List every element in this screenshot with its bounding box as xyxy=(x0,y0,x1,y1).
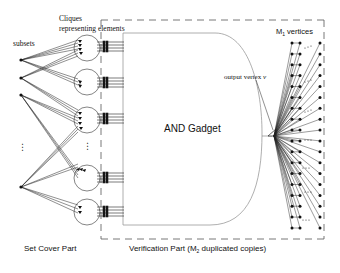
subset-node xyxy=(19,58,22,61)
m1-vertex xyxy=(319,52,322,55)
m1-vertex xyxy=(291,118,294,121)
subset-edges xyxy=(21,40,78,213)
m1-vertex xyxy=(319,183,322,186)
m1-vertex xyxy=(319,205,322,208)
reduction-diagram: ⋮ ⋮ subsets Cliques representing element… xyxy=(0,0,340,273)
m1-vertex xyxy=(319,194,322,197)
m1-vertex xyxy=(291,216,294,219)
m1-vertex xyxy=(319,85,322,88)
m1-vertex xyxy=(299,205,302,208)
fan-edge xyxy=(274,54,320,136)
m1-vertex xyxy=(299,96,302,99)
clique-ellipsis: ⋮ xyxy=(83,141,92,151)
m1-vertex xyxy=(319,118,322,121)
fan-edge xyxy=(274,136,320,195)
m1-vertex xyxy=(291,150,294,153)
fan-edge xyxy=(274,76,320,136)
output-vertex-pointer xyxy=(256,80,273,130)
m1-vertex xyxy=(319,107,322,110)
m1-vertex xyxy=(291,52,294,55)
m1-vertex xyxy=(319,74,322,77)
subset-node xyxy=(19,93,22,96)
m1-vertex xyxy=(299,85,302,88)
m1-vertex xyxy=(319,129,322,132)
fan-edge xyxy=(274,136,320,217)
m1-vertex xyxy=(299,118,302,121)
cliques-label-line1: Cliques xyxy=(59,14,82,23)
m1-vertex xyxy=(291,139,294,142)
m1-vertex xyxy=(291,85,294,88)
m1-vertex xyxy=(319,63,322,66)
m1-vertex xyxy=(299,183,302,186)
verification-part-label: Verification Part (M2 duplicated copies) xyxy=(129,244,266,254)
m1-vertex xyxy=(299,150,302,153)
subset-node xyxy=(19,76,22,79)
m1-vertex xyxy=(291,194,294,197)
m1-vertex xyxy=(291,42,294,45)
m1-vertex xyxy=(291,227,294,230)
m1-vertex xyxy=(299,194,302,197)
fan-edge xyxy=(274,136,292,217)
m1-vertex xyxy=(319,227,322,230)
clique xyxy=(74,107,100,133)
subsets-label: subsets xyxy=(13,39,35,48)
output-vertex-label: output vertex v xyxy=(224,73,267,81)
m1-vertex xyxy=(319,139,322,142)
m1-vertex xyxy=(299,139,302,142)
clique xyxy=(74,199,100,225)
m1-vertex xyxy=(291,63,294,66)
set-cover-part-label: Set Cover Part xyxy=(24,244,77,253)
m1-vertex xyxy=(299,74,302,77)
m1-vertex xyxy=(319,150,322,153)
clique-arrowheads xyxy=(76,40,86,214)
m1-vertex xyxy=(319,96,322,99)
clique xyxy=(74,35,100,61)
output-fan-edges xyxy=(274,43,320,228)
m1-vertex xyxy=(319,172,322,175)
m1-vertex xyxy=(291,96,294,99)
m1-vertex xyxy=(299,172,302,175)
fan-edge xyxy=(274,87,300,137)
m1-vertex xyxy=(319,216,322,219)
m1-vertex xyxy=(291,161,294,164)
m1-vertex xyxy=(291,129,294,132)
clique-circles xyxy=(74,35,100,225)
m1-vertex xyxy=(299,42,302,45)
m1-vertex xyxy=(299,161,302,164)
subset-nodes xyxy=(19,58,22,188)
subset-node xyxy=(19,185,22,188)
m1-vertex xyxy=(299,52,302,55)
m1-vertices-label: M1 vertices xyxy=(276,27,313,37)
m1-vertex xyxy=(291,74,294,77)
m1-vertex xyxy=(299,216,302,219)
and-gadget-label: AND Gadget xyxy=(164,123,221,134)
fan-edge xyxy=(274,136,300,217)
m1-vertex xyxy=(299,227,302,230)
m1-vertex xyxy=(291,107,294,110)
m1-vertex xyxy=(299,63,302,66)
subset-ellipsis: ⋮ xyxy=(18,142,27,152)
m1-vertex xyxy=(291,183,294,186)
m1-vertex xyxy=(319,161,322,164)
cliques-label-line2: representing elements xyxy=(59,24,125,33)
m1-vertex xyxy=(291,205,294,208)
m1-vertex xyxy=(319,42,322,45)
m1-vertex xyxy=(291,172,294,175)
fan-edge xyxy=(274,54,292,136)
m1-vertex xyxy=(299,129,302,132)
m1-vertex xyxy=(299,107,302,110)
